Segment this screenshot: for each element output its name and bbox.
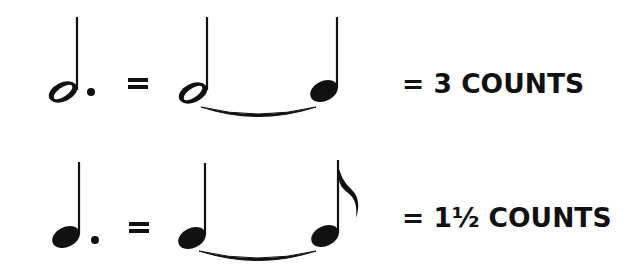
equals-sign-icon — [129, 222, 149, 233]
dotted-half-note-icon — [45, 17, 95, 107]
tie-icon — [201, 107, 316, 117]
tie-icon — [199, 251, 316, 261]
counts-label-row-1: = 3 COUNTS — [402, 69, 584, 99]
half-note-icon — [175, 17, 210, 108]
counts-label-row-2: = 1½ COUNTS — [402, 203, 612, 233]
quarter-note-icon — [175, 163, 210, 253]
eighth-note-icon — [308, 160, 359, 251]
dotted-quarter-note-icon — [49, 162, 99, 252]
quarter-note-icon — [307, 17, 342, 106]
equals-sign-icon — [128, 78, 148, 89]
notation-diagram — [0, 0, 630, 276]
